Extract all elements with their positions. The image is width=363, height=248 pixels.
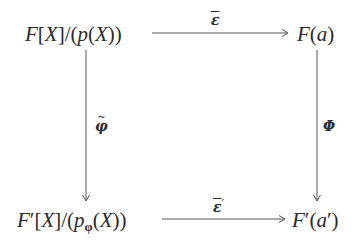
close-parens: )) xyxy=(108,22,122,46)
symbol-p: p xyxy=(78,22,89,46)
close-paren: ) xyxy=(332,208,339,232)
label-left-arrow: ~ φ xyxy=(95,118,108,134)
open-bracket: [ xyxy=(38,22,45,46)
symbol-X: X xyxy=(45,22,58,46)
node-top-right: F(a) xyxy=(297,22,334,46)
node-top-left: F[X]/(p(X)) xyxy=(25,22,122,46)
close-bracket: ] xyxy=(58,22,65,46)
close-paren: ) xyxy=(327,22,334,46)
symbol-p: p xyxy=(74,208,85,232)
label-bottom-arrow: ε′ xyxy=(213,199,224,217)
symbol-F: F xyxy=(25,22,38,46)
symbol-X: X xyxy=(95,22,108,46)
commutative-diagram: F[X]/(p(X)) F(a) F′[X]/(pφ(X)) F′(a′) ε … xyxy=(0,0,363,248)
symbol-X: X xyxy=(100,208,113,232)
symbol-F: F xyxy=(17,208,30,232)
symbol-a: a xyxy=(317,22,328,46)
epsilon-bar: ε xyxy=(211,12,220,28)
phi-tilde: ~ φ xyxy=(95,118,108,134)
symbol-a: a xyxy=(316,208,327,232)
label-right-arrow: Φ xyxy=(323,118,335,134)
tilde-accent: ~ xyxy=(95,109,108,125)
symbol-X: X xyxy=(41,208,54,232)
subscript-phi: φ xyxy=(85,219,93,234)
symbol-F: F xyxy=(292,208,305,232)
right-arrow xyxy=(314,50,321,201)
symbol-F: F xyxy=(297,22,310,46)
epsilon-bar: ε xyxy=(213,199,222,215)
open-paren: ( xyxy=(88,22,95,46)
open-paren: ( xyxy=(93,208,100,232)
label-top-arrow: ε xyxy=(211,12,220,28)
open-paren: ( xyxy=(71,22,78,46)
node-bottom-left: F′[X]/(pφ(X)) xyxy=(17,208,127,235)
node-bottom-right: F′(a′) xyxy=(292,208,339,232)
left-arrow xyxy=(83,50,90,201)
top-arrow xyxy=(152,30,288,37)
symbol-Phi: Φ xyxy=(323,118,335,134)
open-paren: ( xyxy=(310,22,317,46)
prime: ′ xyxy=(222,197,225,210)
close-parens: )) xyxy=(113,208,127,232)
